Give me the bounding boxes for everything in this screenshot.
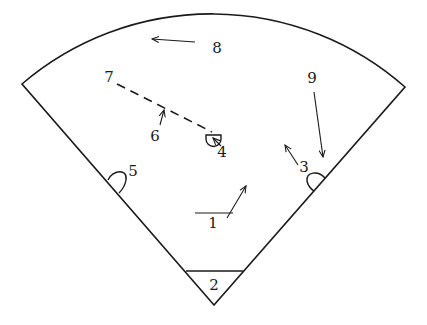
arrow-6 — [160, 110, 164, 125]
label-5: 5 — [128, 162, 138, 180]
diagram-canvas: 1 2 3 4 5 6 7 8 9 — [0, 0, 427, 325]
label-9: 9 — [307, 69, 317, 87]
dashed-line — [117, 84, 212, 132]
label-8: 8 — [212, 39, 222, 57]
label-3: 3 — [299, 158, 309, 176]
marker-5-semicircle — [108, 172, 126, 193]
label-6: 6 — [150, 127, 160, 145]
arrow-1 — [227, 186, 246, 218]
arrow-9 — [314, 92, 323, 157]
sector-outline — [22, 14, 405, 305]
label-7: 7 — [104, 68, 114, 86]
label-2: 2 — [209, 276, 219, 294]
arrow-3 — [285, 145, 298, 165]
label-4: 4 — [217, 143, 227, 161]
label-1: 1 — [208, 214, 218, 232]
arrow-8 — [152, 39, 195, 42]
field-diagram: 1 2 3 4 5 6 7 8 9 — [0, 0, 427, 325]
